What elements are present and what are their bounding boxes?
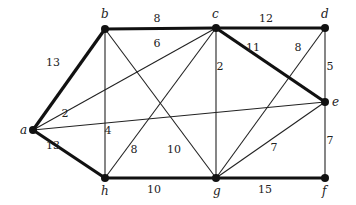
edge-weight-b-c: 8: [154, 12, 161, 25]
node-label-b: b: [101, 7, 109, 21]
node-c: [212, 24, 220, 32]
edge-weight-e-f: 7: [327, 134, 334, 147]
edge-e-g: [216, 102, 325, 178]
node-labels-layer: abcdefgh: [20, 7, 339, 198]
edge-b-c: [105, 28, 216, 29]
node-label-h: h: [101, 184, 109, 198]
node-a: [29, 126, 37, 134]
edge-weight-c-g: 2: [217, 60, 224, 73]
edge-weight-d-g: 8: [295, 41, 302, 54]
edge-weight-c-d: 12: [259, 12, 273, 25]
node-label-f: f: [321, 184, 329, 198]
node-h: [101, 174, 109, 182]
node-label-d: d: [321, 7, 329, 21]
edge-weight-b-g: 10: [167, 143, 181, 156]
edge-weight-b-h: 4: [105, 124, 112, 137]
node-d: [321, 24, 329, 32]
edge-weight-a-e: 2: [62, 107, 69, 120]
node-b: [101, 25, 109, 33]
edge-weight-c-h: 8: [131, 143, 138, 156]
node-label-c: c: [212, 7, 219, 21]
node-label-a: a: [20, 123, 27, 137]
node-label-e: e: [332, 95, 339, 109]
node-g: [212, 174, 220, 182]
node-e: [321, 98, 329, 106]
node-f: [321, 174, 329, 182]
edge-weight-h-g: 10: [147, 183, 161, 196]
weighted-graph-diagram: 138121113101562410288577 abcdefgh: [0, 0, 356, 205]
edge-c-e: [216, 28, 325, 102]
edge-a-h: [33, 130, 105, 178]
edge-weight-g-f: 15: [258, 183, 272, 196]
edge-weight-c-e: 11: [246, 41, 260, 54]
edge-weight-a-h: 13: [46, 139, 60, 152]
edge-weight-a-c: 6: [154, 37, 161, 50]
edge-weight-a-b: 13: [46, 56, 60, 69]
edge-weight-d-e: 5: [327, 60, 334, 73]
node-label-g: g: [213, 184, 221, 198]
edge-a-b: [33, 29, 105, 130]
edge-weight-e-g: 7: [271, 141, 278, 154]
edge-d-g: [216, 28, 325, 178]
